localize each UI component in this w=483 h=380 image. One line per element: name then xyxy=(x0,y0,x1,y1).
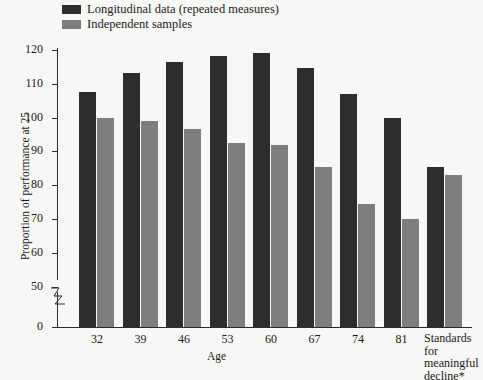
x-axis-tick-label-line: Standards xyxy=(424,332,483,345)
y-axis-tick-label: 0 xyxy=(37,319,43,333)
y-axis-tick-label: 60 xyxy=(31,245,43,259)
bar-group: 67 xyxy=(297,40,333,327)
bar xyxy=(384,118,401,328)
x-axis-tick-label: 32 xyxy=(74,332,120,347)
bar xyxy=(271,145,288,327)
x-axis-tick-label-line: 67 xyxy=(292,332,338,347)
y-axis-tick-label: 120 xyxy=(25,42,43,56)
legend-item-longitudinal: Longitudinal data (repeated measures) xyxy=(62,2,362,16)
legend-swatch-icon-independent xyxy=(62,20,81,29)
plot-area: 05060708090100110120 3239465360677481Sta… xyxy=(57,40,472,328)
bar xyxy=(123,73,140,327)
x-axis-tick-label-line: 81 xyxy=(379,332,425,347)
x-axis-tick-label: 67 xyxy=(292,332,338,347)
y-axis-tick: 0 xyxy=(52,327,58,328)
y-axis-tick: 100 xyxy=(52,118,58,119)
x-axis-tick-label: 53 xyxy=(205,332,251,347)
x-axis-tick-label: 74 xyxy=(335,332,381,347)
y-axis-title: Proportion of performance at 25 xyxy=(19,71,31,301)
bar xyxy=(253,53,270,327)
y-axis-tick-label: 90 xyxy=(31,143,43,157)
x-axis-tick-label-line: decline* xyxy=(424,370,483,380)
bar-group: 60 xyxy=(253,40,289,327)
y-axis-tick: 90 xyxy=(52,151,58,152)
bar-group: 32 xyxy=(79,40,115,327)
bar xyxy=(79,92,96,327)
legend-label-independent: Independent samples xyxy=(87,18,192,31)
bar xyxy=(427,167,444,327)
y-axis-tick-label: 110 xyxy=(25,76,43,90)
x-axis-tick-label-line: 60 xyxy=(248,332,294,347)
bar xyxy=(315,167,332,327)
bar-group: 53 xyxy=(210,40,246,327)
bar xyxy=(210,56,227,327)
bar-group: 81 xyxy=(384,40,420,327)
x-axis-tick-label-line: 39 xyxy=(118,332,164,347)
y-axis-tick-label: 70 xyxy=(31,211,43,225)
x-axis-tick-label-line: 46 xyxy=(161,332,207,347)
bar xyxy=(184,129,201,327)
x-axis-tick-label: 60 xyxy=(248,332,294,347)
bar xyxy=(402,219,419,327)
y-axis-tick: 80 xyxy=(52,185,58,186)
y-axis-tick: 120 xyxy=(52,50,58,51)
y-axis-tick: 110 xyxy=(52,84,58,85)
bar xyxy=(340,94,357,327)
legend-label-longitudinal: Longitudinal data (repeated measures) xyxy=(87,3,279,16)
bar xyxy=(141,121,158,327)
y-axis-tick-label: 80 xyxy=(31,177,43,191)
legend-item-independent: Independent samples xyxy=(62,17,362,31)
legend-swatch-icon-longitudinal xyxy=(62,5,81,14)
y-axis-tick: 70 xyxy=(52,219,58,220)
bar xyxy=(228,143,245,327)
bar-group: 46 xyxy=(166,40,202,327)
x-axis-title: Age xyxy=(0,350,477,362)
bar-group: 39 xyxy=(123,40,159,327)
x-axis-title-text: Age xyxy=(207,350,226,362)
bar-group: Standardsformeaningfuldecline* xyxy=(427,40,463,327)
x-axis-tick-label-line: 74 xyxy=(335,332,381,347)
bar xyxy=(358,204,375,327)
y-axis-tick-label: 50 xyxy=(31,279,43,293)
bar xyxy=(445,175,462,327)
chart-legend: Longitudinal data (repeated measures) In… xyxy=(62,2,362,32)
x-axis-tick-label: 46 xyxy=(161,332,207,347)
x-axis-tick-label: 81 xyxy=(379,332,425,347)
y-axis-tick-label: 100 xyxy=(25,110,43,124)
bar xyxy=(97,118,114,328)
bar xyxy=(297,68,314,327)
x-axis-tick-label-line: 53 xyxy=(205,332,251,347)
x-axis-tick-label: 39 xyxy=(118,332,164,347)
y-axis-tick: 50 xyxy=(52,287,58,288)
y-axis-tick: 60 xyxy=(52,253,58,254)
bar xyxy=(166,62,183,327)
bar-group: 74 xyxy=(340,40,376,327)
x-axis-line xyxy=(57,327,472,328)
axis-break-icon xyxy=(50,286,66,306)
x-axis-tick-label-line: 32 xyxy=(74,332,120,347)
